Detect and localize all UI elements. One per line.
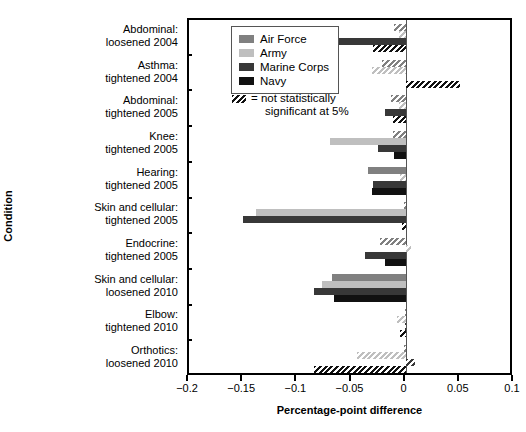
x-tick-label: −0.2 <box>157 382 217 394</box>
y-axis-title-text: Condition <box>2 156 14 276</box>
legend-swatch-icon <box>239 77 254 85</box>
legend-item: Marine Corps <box>239 60 329 74</box>
y-tick-label-line: loosened 2004 <box>18 36 178 49</box>
y-tick-label-line: Hearing: <box>18 166 178 179</box>
legend-item: Navy <box>239 74 329 88</box>
y-tick-label: Abdominal:tightened 2005 <box>18 94 178 120</box>
legend-item: Air Force <box>239 32 329 46</box>
bar-marine-corps <box>378 145 406 152</box>
bar-air-force <box>394 24 406 31</box>
legend: Air ForceArmyMarine CorpsNavy <box>231 26 339 94</box>
y-tick-label-line: loosened 2010 <box>18 286 178 299</box>
bar-army <box>399 31 406 38</box>
bar-group <box>189 270 510 306</box>
bar-marine-corps <box>243 216 406 223</box>
bar-marine-corps <box>373 181 406 188</box>
bar-air-force <box>393 131 406 138</box>
bar-group <box>189 127 510 163</box>
x-tick-label: 0 <box>374 382 434 394</box>
y-tick-label: Knee:tightened 2005 <box>18 130 178 156</box>
bar-air-force <box>404 345 406 352</box>
bar-navy <box>314 366 406 373</box>
bar-navy <box>334 295 406 302</box>
legend-swatch-icon <box>239 49 254 57</box>
y-tick-label-line: tightened 2010 <box>18 321 178 334</box>
bar-navy <box>394 152 406 159</box>
x-tick-mark <box>349 375 351 381</box>
x-tick-mark <box>186 375 188 381</box>
y-tick-label-line: tightened 2005 <box>18 250 178 263</box>
bar-army <box>399 102 406 109</box>
legend-label: Air Force <box>260 32 307 46</box>
hatch-swatch-icon <box>232 95 246 103</box>
bar-air-force <box>382 60 406 67</box>
significance-note-line1: = not statistically <box>251 92 349 105</box>
y-axis-tick-labels: Abdominal:loosened 2004Asthma:tightened … <box>22 18 182 375</box>
bar-group <box>189 341 510 377</box>
bar-air-force <box>332 274 406 281</box>
y-tick-label: Skin and cellular:loosened 2010 <box>18 273 178 299</box>
bar-marine-corps <box>405 323 406 330</box>
y-tick-label: Skin and cellular:tightened 2005 <box>18 201 178 227</box>
y-tick-label-line: Abdominal: <box>18 23 178 36</box>
legend-item: Army <box>239 46 329 60</box>
bar-navy <box>402 223 405 230</box>
bar-army <box>330 138 406 145</box>
bar-army <box>372 67 406 74</box>
bar-navy <box>385 259 406 266</box>
bar-group <box>189 306 510 342</box>
significance-note-text: = not statistically significant at 5% <box>251 92 349 118</box>
y-tick-label-line: Abdominal: <box>18 94 178 107</box>
bar-group <box>189 163 510 199</box>
bar-army <box>256 209 406 216</box>
y-axis-title: Condition <box>2 38 14 158</box>
bar-air-force <box>380 238 406 245</box>
bar-marine-corps <box>365 252 406 259</box>
x-tick-mark <box>403 375 405 381</box>
x-tick-mark <box>511 375 513 381</box>
y-tick-mark <box>187 161 192 163</box>
legend-label: Army <box>260 46 287 60</box>
y-tick-mark <box>187 125 192 127</box>
bar-navy <box>406 81 460 88</box>
x-tick-label: −0.05 <box>320 382 380 394</box>
y-tick-label-line: Elbow: <box>18 308 178 321</box>
bar-air-force <box>405 309 406 316</box>
y-tick-mark <box>187 54 192 56</box>
bar-navy <box>373 45 406 52</box>
y-tick-label: Orthotics:loosened 2010 <box>18 344 178 370</box>
y-tick-label: Endocrine:tightened 2005 <box>18 237 178 263</box>
bar-navy <box>400 330 405 337</box>
y-tick-label-line: tightened 2005 <box>18 179 178 192</box>
x-tick-label: 0.1 <box>482 382 526 394</box>
y-tick-label: Hearing:tightened 2005 <box>18 166 178 192</box>
bar-air-force <box>404 202 406 209</box>
y-tick-mark <box>187 339 192 341</box>
x-tick-label: −0.15 <box>211 382 271 394</box>
bar-navy <box>393 116 406 123</box>
legend-swatch-icon <box>239 63 254 71</box>
significance-note-line2: significant at 5% <box>265 105 349 118</box>
legend-swatch-icon <box>239 35 254 43</box>
legend-label: Navy <box>260 74 286 88</box>
y-tick-label-line: tightened 2005 <box>18 143 178 156</box>
y-tick-label-line: Knee: <box>18 130 178 143</box>
y-tick-mark <box>187 197 192 199</box>
y-tick-label-line: tightened 2004 <box>18 72 178 85</box>
bar-army <box>397 316 406 323</box>
significance-note: = not statistically significant at 5% <box>232 92 349 118</box>
x-tick-mark <box>294 375 296 381</box>
chart-figure: Condition Abdominal:loosened 2004Asthma:… <box>0 0 526 432</box>
bar-air-force <box>391 95 406 102</box>
bar-navy <box>372 188 406 195</box>
bar-air-force <box>368 167 406 174</box>
bar-marine-corps <box>385 109 406 116</box>
y-tick-label-line: Skin and cellular: <box>18 201 178 214</box>
y-tick-mark <box>187 89 192 91</box>
y-tick-label: Elbow:tightened 2010 <box>18 308 178 334</box>
bar-group <box>189 234 510 270</box>
y-tick-label-line: Orthotics: <box>18 344 178 357</box>
y-tick-label-line: tightened 2005 <box>18 107 178 120</box>
y-tick-mark <box>187 268 192 270</box>
y-tick-mark <box>187 232 192 234</box>
